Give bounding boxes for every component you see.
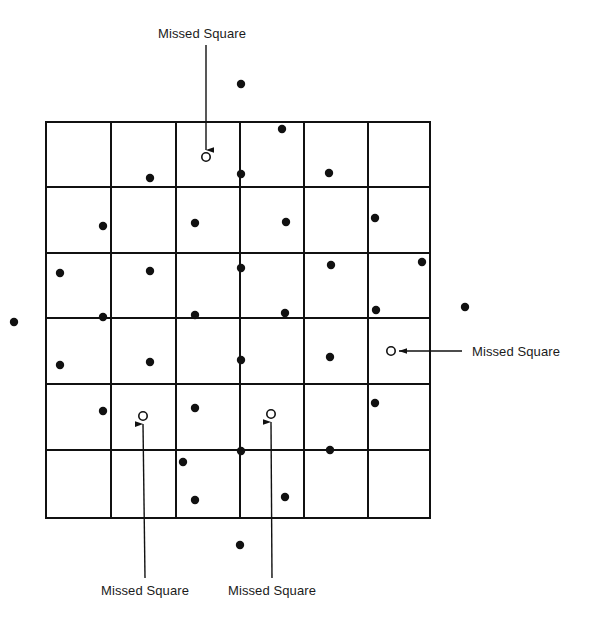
sampled-point-dot [99, 407, 107, 415]
figure-canvas: Missed SquareMissed SquareMissed SquareM… [0, 0, 599, 620]
sampled-point-dot [146, 358, 154, 366]
sampled-point-dot [326, 446, 334, 454]
callout-bottom-left-label: Missed Square [101, 583, 189, 598]
callout-bottom-right-label: Missed Square [228, 583, 316, 598]
sampled-point-dot [56, 361, 64, 369]
sampled-point-dot [326, 353, 334, 361]
sampled-point-dot [372, 306, 380, 314]
missed-top-marker [202, 153, 210, 161]
missed-right-marker [387, 347, 395, 355]
callout-top-label: Missed Square [158, 26, 246, 41]
missed-squares-layer [139, 153, 395, 420]
sampled-point-dot [191, 404, 199, 412]
sampled-point-dot [10, 318, 18, 326]
sampled-point-dot [282, 218, 290, 226]
sampled-point-dot [237, 80, 245, 88]
sampled-point-dot [56, 269, 64, 277]
callout-leader-lines [143, 45, 462, 578]
sampled-point-dot [325, 169, 333, 177]
sampled-point-dot [146, 267, 154, 275]
sampled-point-dot [371, 399, 379, 407]
sampled-point-dot [99, 222, 107, 230]
sampled-point-dot [418, 258, 426, 266]
callout-bottom-right-leader-line [271, 422, 272, 578]
sampled-point-dot [191, 219, 199, 227]
missed-square-scatter-diagram [0, 0, 599, 620]
sampled-point-dot [237, 170, 245, 178]
sampled-point-dot [191, 311, 199, 319]
callout-right-label: Missed Square [472, 344, 560, 359]
callout-bottom-left-leader-line [143, 424, 145, 578]
sampled-point-dot [278, 125, 286, 133]
sampled-point-dot [191, 496, 199, 504]
sampled-point-dot [99, 313, 107, 321]
sampled-point-dot [371, 214, 379, 222]
sampled-point-dot [237, 264, 245, 272]
sampled-point-dot [281, 309, 289, 317]
missed-bottom-right-marker [267, 410, 275, 418]
sampled-point-dot [146, 174, 154, 182]
sampled-point-dot [281, 493, 289, 501]
sampled-point-dot [237, 447, 245, 455]
sampled-point-dot [461, 303, 469, 311]
sampled-point-dot [237, 356, 245, 364]
sampled-point-dot [179, 458, 187, 466]
sampled-point-dot [327, 261, 335, 269]
sampled-point-dot [236, 541, 244, 549]
missed-bottom-left-marker [139, 412, 147, 420]
